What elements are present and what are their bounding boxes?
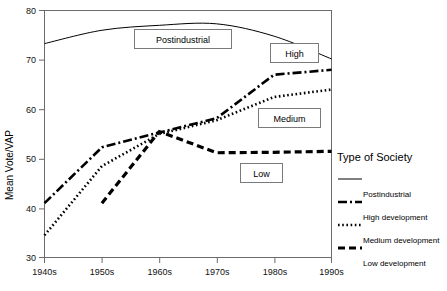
annotation-low-text: Low — [253, 169, 270, 179]
x-tick-label-1940s: 1940s — [32, 267, 57, 277]
legend-item-postindustrial[interactable]: Postindustrial — [338, 179, 411, 199]
x-tick-label-1970s: 1970s — [205, 267, 230, 277]
x-axis: 1940s 1950s 1960s 1970s 1980s 1990s — [32, 258, 344, 278]
legend-item-low-development[interactable]: Low development — [338, 248, 426, 268]
x-tick-label-1950s: 1950s — [90, 267, 115, 277]
legend-item-medium-development[interactable]: Medium development — [338, 225, 440, 245]
legend-item-high-development[interactable]: High development — [338, 202, 428, 222]
annotation-high-text: High — [285, 49, 304, 59]
legend-label-low-development: Low development — [363, 259, 426, 268]
y-tick-label-70: 70 — [26, 55, 36, 65]
legend: Type of Society Postindustrial High deve… — [337, 151, 440, 268]
y-tick-label-30: 30 — [26, 253, 36, 263]
legend-title: Type of Society — [337, 151, 413, 163]
annotation-medium-text: Medium — [273, 114, 305, 124]
y-tick-label-80: 80 — [26, 6, 36, 16]
chart-container: Mean Vote/VAP 80 70 60 50 40 30 — [0, 0, 447, 291]
annotation-postindustrial: Postindustrial — [135, 30, 232, 49]
annotation-high: High — [271, 44, 319, 63]
y-tick-label-60: 60 — [26, 105, 36, 115]
legend-label-high-development: High development — [363, 213, 428, 222]
annotation-postindustrial-text: Postindustrial — [156, 35, 210, 45]
y-axis-title-text: Mean Vote/VAP — [4, 130, 15, 200]
annotation-medium: Medium — [259, 109, 321, 128]
y-tick-label-40: 40 — [26, 204, 36, 214]
y-tick-label-50: 50 — [26, 154, 36, 164]
annotation-low: Low — [241, 164, 283, 183]
x-tick-label-1980s: 1980s — [263, 267, 288, 277]
chart-svg: Mean Vote/VAP 80 70 60 50 40 30 — [0, 0, 447, 291]
y-axis: 80 70 60 50 40 30 — [26, 6, 45, 263]
y-axis-title: Mean Vote/VAP — [4, 130, 15, 200]
series-low-development — [102, 132, 332, 204]
legend-label-postindustrial: Postindustrial — [363, 190, 411, 199]
x-tick-label-1990s: 1990s — [319, 267, 344, 277]
x-tick-label-1960s: 1960s — [147, 267, 172, 277]
legend-label-medium-development: Medium development — [363, 236, 440, 245]
